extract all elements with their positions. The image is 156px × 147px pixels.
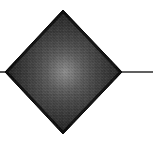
figure-canvas: Dark diamond with central glow and horiz… bbox=[0, 0, 156, 147]
diamond-figure-svg bbox=[0, 0, 156, 147]
